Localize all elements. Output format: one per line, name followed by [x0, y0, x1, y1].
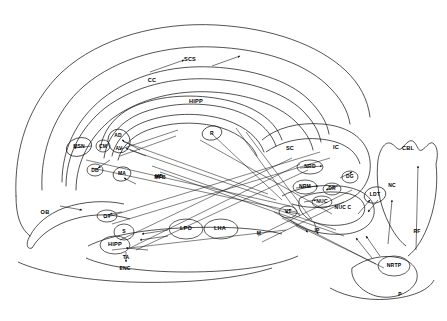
label-lha: LHA — [214, 225, 226, 231]
label-cm: CM — [99, 143, 107, 149]
projection-arrows — [60, 56, 418, 262]
label-nrm: NRM — [299, 183, 311, 189]
label-m_nuc: M — [257, 230, 261, 236]
label-lpo: LPO — [180, 225, 192, 231]
label-db: DB — [91, 167, 99, 173]
label-ldt: LDT — [370, 191, 380, 197]
label-ic: IC — [333, 144, 339, 150]
label-nrtp: NRTP — [387, 262, 401, 268]
label-r: R — [210, 130, 214, 136]
label-ma: MA — [118, 170, 126, 176]
brain-diagram-svg — [0, 0, 447, 321]
label-ip: IP — [314, 227, 319, 233]
label-vt: VT — [285, 208, 292, 214]
label-nuc: NUC — [316, 198, 327, 204]
label-ot: OT — [103, 213, 110, 219]
label-hipp_bot: HIPP — [108, 241, 122, 247]
label-ta: TA — [123, 254, 130, 260]
label-cbl: CBL — [402, 145, 414, 151]
label-sc: SC — [286, 145, 294, 151]
label-dr: DR — [328, 185, 336, 191]
label-dg: DG — [346, 173, 354, 179]
label-nuc_c: NUC C — [335, 204, 352, 210]
label-cc: CC — [148, 77, 156, 83]
label-rf: RF — [413, 228, 420, 234]
label-nc: NC — [388, 182, 396, 188]
label-ad: AD — [114, 132, 122, 138]
label-hipp_top: HIPP — [189, 98, 203, 104]
long-fiber-tracts — [86, 128, 384, 268]
label-av: AV — [116, 145, 123, 151]
label-enc: ENC — [119, 265, 130, 271]
label-mfb: MFB — [154, 174, 165, 180]
figure-canvas: SCSCCHIPPADAVCMMSNRDBMAMDMFBOBOTSLPOLHAM… — [0, 0, 447, 321]
label-msn: MSN — [73, 143, 85, 149]
subcortical-outlines — [18, 124, 437, 300]
label-nrd: NRD — [304, 163, 315, 169]
label-s_nuc: S — [122, 228, 126, 234]
label-scs: SCS — [184, 56, 196, 62]
label-ob: OB — [41, 209, 50, 215]
label-p: P — [398, 291, 402, 297]
